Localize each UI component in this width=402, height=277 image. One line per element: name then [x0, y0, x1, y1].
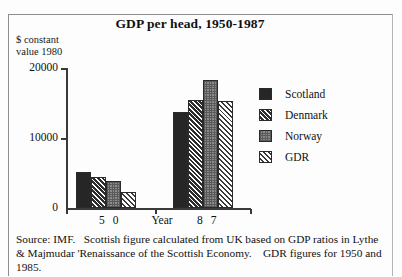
bar-norway-1950: [106, 181, 121, 208]
legend-swatch-denmark: [259, 109, 272, 121]
x-tick-label-1987: 8 7: [188, 214, 228, 226]
bar-denmark-1950: [91, 177, 106, 208]
legend-label-scotland: Scotland: [285, 88, 325, 100]
legend-swatch-scotland: [259, 88, 272, 100]
x-axis-line: [66, 208, 251, 210]
legend-item-scotland: Scotland: [259, 84, 379, 103]
source-note: Source: IMF. Scottish figure calculated …: [16, 232, 388, 275]
legend-label-norway: Norway: [285, 130, 322, 142]
x-tick-mark-end: [250, 209, 252, 214]
legend-item-norway: Norway: [259, 126, 379, 145]
bar-gdr-1950: [121, 192, 136, 208]
chart-figure: GDP per head, 1950-1987 $ constant value…: [0, 0, 402, 277]
x-tick-mark-start: [66, 209, 68, 214]
bar-denmark-1987: [188, 100, 203, 208]
x-axis-title: Year: [140, 214, 184, 226]
legend-swatch-gdr: [259, 151, 272, 163]
bar-gdr-1987: [218, 101, 233, 208]
legend-label-denmark: Denmark: [285, 109, 328, 121]
legend-label-gdr: GDR: [285, 151, 309, 163]
legend-item-gdr: GDR: [259, 147, 379, 166]
bar-scotland-1987: [173, 112, 188, 208]
legend-item-denmark: Denmark: [259, 105, 379, 124]
bar-norway-1987: [203, 80, 218, 208]
chart-legend: Scotland Denmark Norway GDR: [259, 84, 379, 168]
legend-swatch-norway: [259, 130, 272, 142]
bar-scotland-1950: [76, 172, 91, 208]
x-tick-label-1950: 5 0: [90, 214, 130, 226]
